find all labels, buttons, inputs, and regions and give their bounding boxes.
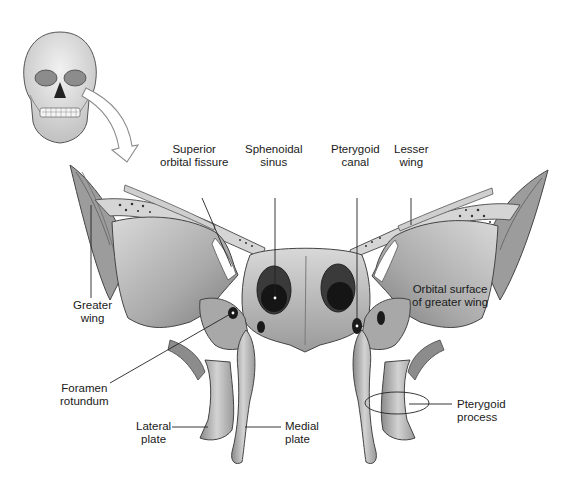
label-pterygoid-process: Pterygoid process: [457, 398, 506, 424]
label-lateral-plate: Lateral plate: [136, 420, 171, 446]
label-greater-wing: Greater wing: [73, 299, 112, 325]
label-medial-plate: Medial plate: [285, 420, 319, 446]
sphenoid-diagram: Superior orbital fissure Sphenoidal sinu…: [0, 0, 575, 504]
label-superior-orbital-fissure: Superior orbital fissure: [160, 143, 228, 169]
pointer-arrow-icon: [82, 88, 138, 162]
label-orbital-surface-greater-wing: Orbital surface of greater wing: [412, 283, 488, 309]
label-foramen-rotundum: Foramen rotundum: [60, 382, 109, 408]
label-sphenoidal-sinus: Sphenoidal sinus: [245, 143, 303, 169]
skull-inset-icon: [24, 32, 97, 143]
label-pterygoid-canal: Pterygoid canal: [331, 143, 380, 169]
label-lesser-wing: Lesser wing: [394, 143, 429, 169]
